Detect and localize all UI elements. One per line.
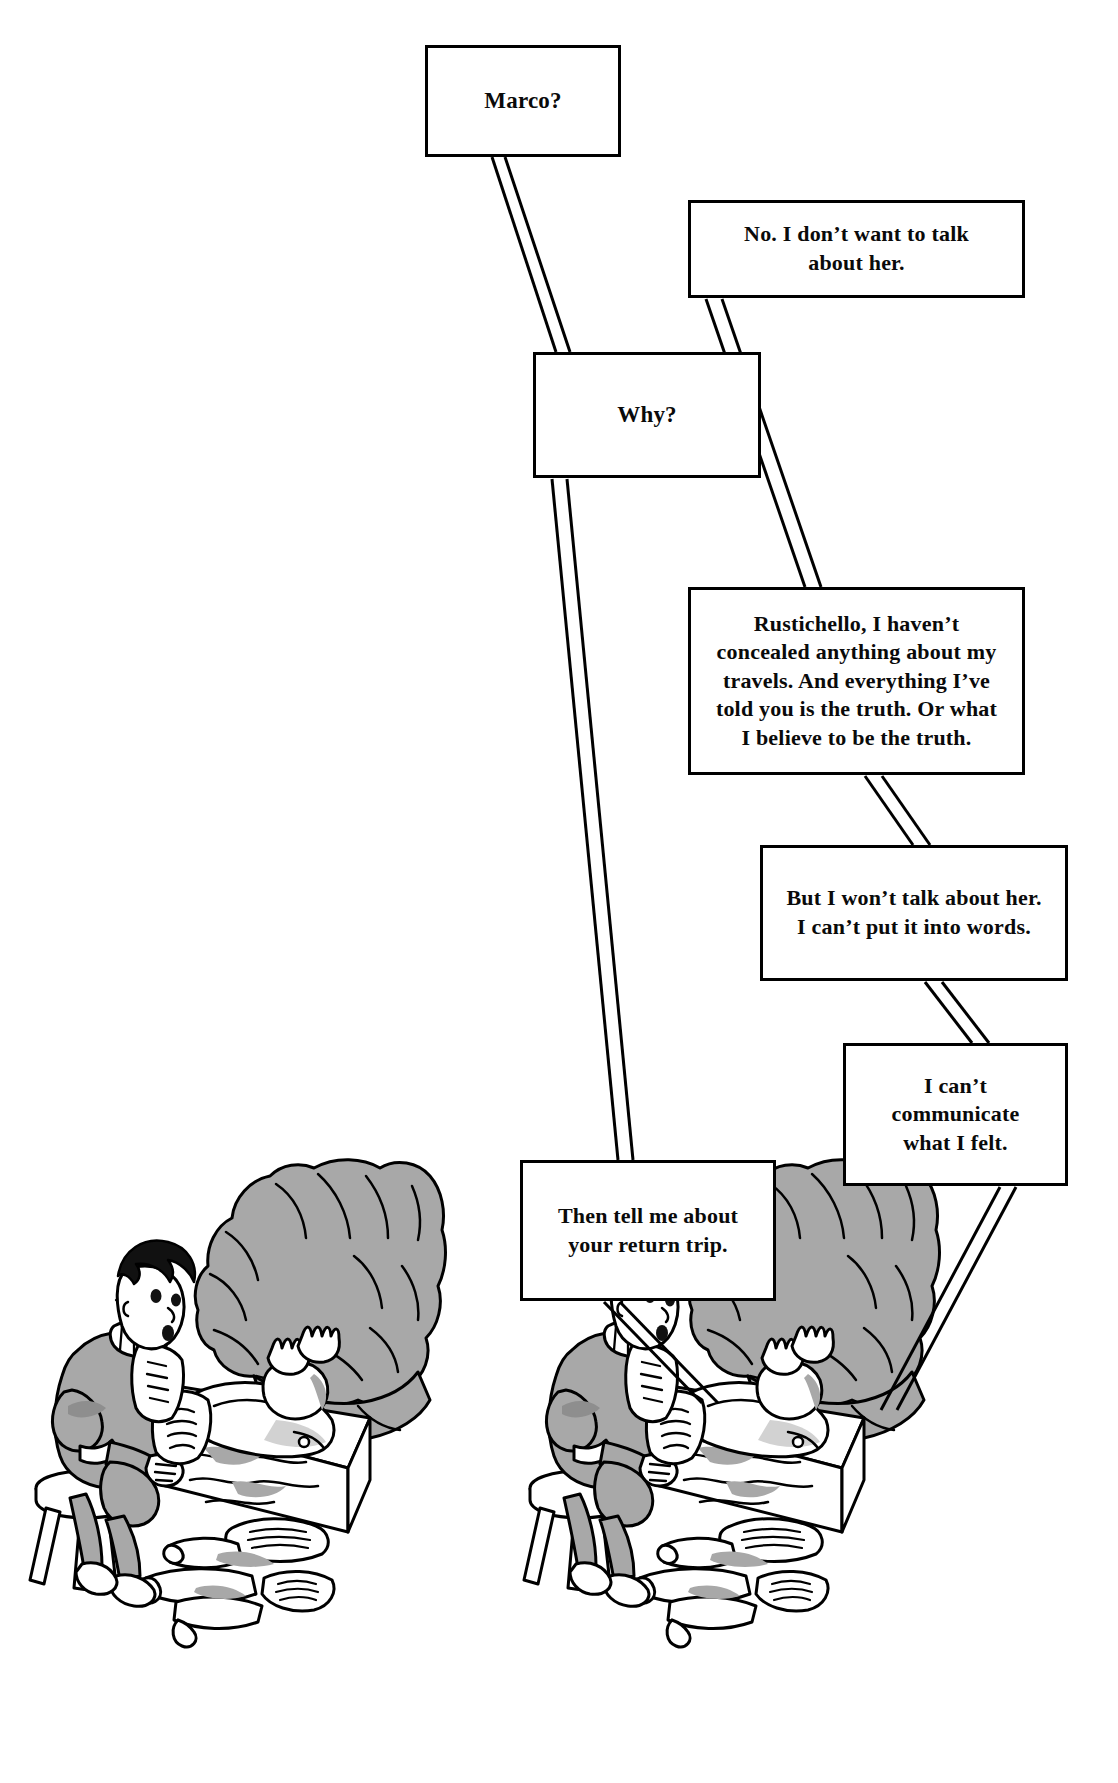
balloon-text: I can’t communicate what I felt. [881, 1072, 1029, 1158]
tail-why [552, 479, 618, 1160]
speech-balloon-but-i-wont: But I won’t talk about her. I can’t put … [760, 845, 1068, 981]
balloon-text: Marco? [474, 86, 571, 116]
comic-page: Marco? No. I don’t want to talk about he… [0, 0, 1118, 1783]
tail-marco [492, 157, 556, 352]
balloon-text: But I won’t talk about her. I can’t put … [776, 884, 1051, 941]
speech-balloon-rustichello: Rustichello, I haven’t concealed anythin… [688, 587, 1025, 775]
speech-balloon-no: No. I don’t want to talk about her. [688, 200, 1025, 298]
speech-balloon-marco: Marco? [425, 45, 621, 157]
tail-rust [865, 776, 913, 845]
scene-drawing [18, 1150, 448, 1710]
speech-balloon-why: Why? [533, 352, 761, 478]
balloon-text: No. I don’t want to talk about her. [734, 220, 979, 277]
balloon-text: Rustichello, I haven’t concealed anythin… [706, 610, 1007, 753]
speech-balloon-cant-communicate: I can’t communicate what I felt. [843, 1043, 1068, 1186]
tail-butwont [925, 982, 972, 1043]
balloon-text: Then tell me about your return trip. [548, 1202, 748, 1259]
illustration-left [18, 1150, 448, 1710]
balloon-text: Why? [607, 400, 687, 430]
speech-balloon-return-trip: Then tell me about your return trip. [520, 1160, 776, 1301]
